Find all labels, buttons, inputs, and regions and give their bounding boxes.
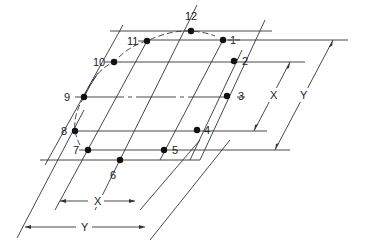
dimension-label-right-y: Y — [300, 90, 307, 101]
oblique-line-d — [160, 40, 223, 160]
oblique-line-y-right — [150, 140, 230, 240]
point-label-9: 9 — [64, 92, 70, 103]
point-label-10: 10 — [93, 57, 105, 68]
point-6 — [117, 157, 123, 163]
point-11 — [144, 38, 150, 44]
point-label-4: 4 — [204, 125, 210, 136]
point-8 — [72, 128, 78, 134]
point-7 — [85, 147, 91, 153]
point-3 — [224, 93, 230, 99]
point-label-6: 6 — [110, 170, 116, 181]
dimension-label-bottom-x: X — [94, 196, 101, 207]
dimension-label-right-x: X — [270, 90, 277, 101]
point-label-11: 11 — [127, 36, 138, 47]
point-label-8: 8 — [61, 126, 67, 137]
point-9 — [81, 94, 87, 100]
point-12 — [188, 28, 194, 34]
point-2 — [231, 58, 237, 64]
point-label-7: 7 — [73, 145, 79, 156]
point-1 — [220, 37, 226, 43]
point-4 — [194, 127, 200, 133]
dimension-label-bottom-y: Y — [81, 222, 88, 233]
point-label-2: 2 — [242, 56, 248, 67]
oblique-line-x-right — [140, 140, 200, 210]
point-label-3: 3 — [238, 91, 244, 102]
isometric-circle-diagram — [0, 0, 365, 251]
point-label-5: 5 — [172, 145, 178, 156]
point-label-12: 12 — [185, 11, 197, 22]
point-label-1: 1 — [230, 35, 236, 46]
point-5 — [161, 147, 167, 153]
ellipse-arc-solid — [84, 73, 98, 97]
oblique-line-e — [190, 50, 242, 160]
point-10 — [111, 59, 117, 65]
